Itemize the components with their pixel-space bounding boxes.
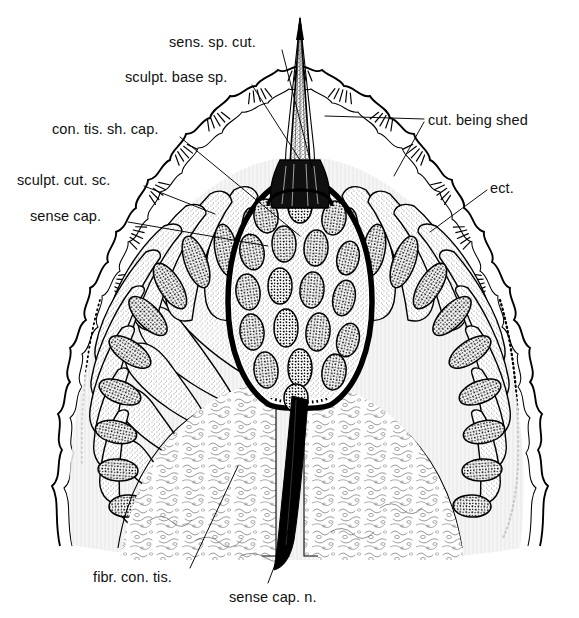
figure-root: sens. sp. cut. sculpt. base sp. con. tis… xyxy=(0,0,579,618)
label-ect: ect. xyxy=(490,181,514,196)
label-sense-cap-n: sense cap. n. xyxy=(229,590,317,605)
label-con-tis-sh-cap: con. tis. sh. cap. xyxy=(52,122,159,137)
label-fibr-con-tis: fibr. con. tis. xyxy=(93,570,172,585)
sensory-spine xyxy=(268,16,332,208)
label-sense-cap: sense cap. xyxy=(30,209,101,224)
label-sens-sp-cut: sens. sp. cut. xyxy=(169,35,256,50)
label-cut-being-shed: cut. being shed xyxy=(428,113,528,128)
illustration-canvas xyxy=(0,0,579,618)
spine-base xyxy=(270,160,329,208)
label-sculpt-base-sp: sculpt. base sp. xyxy=(125,70,227,85)
spine-tip xyxy=(296,16,304,40)
leader-cut-being-shed xyxy=(325,116,424,119)
label-sculpt-cut-sc: sculpt. cut. sc. xyxy=(17,173,110,188)
